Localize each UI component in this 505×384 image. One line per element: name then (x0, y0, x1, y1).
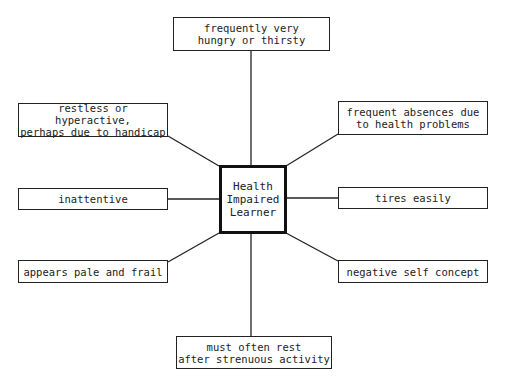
node-restless-hyperactive: restless or hyperactive, perhaps due to … (18, 103, 168, 137)
node-must-rest: must often rest after strenuous activity (176, 336, 332, 369)
connector-lower-right (286, 233, 338, 261)
connector-upper-right (286, 134, 338, 166)
connector-lower-left (168, 233, 219, 262)
connector-upper-left (168, 136, 219, 166)
node-inattentive: inattentive (18, 188, 168, 210)
node-negative-self-concept: negative self concept (338, 260, 488, 283)
node-hungry-thirsty: frequently very hungry or thirsty (173, 17, 330, 51)
node-tires-easily: tires easily (338, 187, 488, 209)
node-pale-frail: appears pale and frail (18, 260, 168, 283)
center-node: Health Impaired Learner (219, 165, 287, 234)
node-frequent-absences: frequent absences due to health problems (338, 101, 488, 135)
